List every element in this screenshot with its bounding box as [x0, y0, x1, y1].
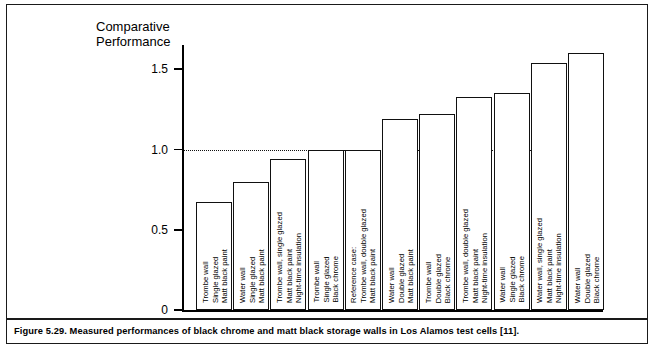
bar: Trombe wall, single glazed Matt black pa… [270, 159, 306, 310]
bar: Trombe wall Double glazed Black chrome [419, 114, 455, 310]
y-tick-mark [174, 229, 183, 231]
bar-category-label: Water wall Double glazed Matt black pain… [383, 249, 419, 303]
bar: Water wall Single glazed Black chrome [494, 93, 530, 310]
bar-chart: Comparative Performance 00.51.01.5 Tromb… [0, 0, 656, 318]
bar-category-text: Trombe wall, double glazed Matt black pa… [461, 209, 490, 303]
y-tick-mark [174, 68, 183, 70]
bar: Water wall Single glazed Matt black pain… [233, 182, 269, 310]
bar-series: Trombe wall Single glazed Matt black pai… [196, 45, 606, 310]
bar-category-label: Reference case: Trombe wall, double glaz… [346, 209, 382, 303]
bar: Water wall Double glazed Matt black pain… [382, 119, 418, 310]
bar-category-text: Water wall Double glazed Matt black pain… [387, 249, 416, 303]
y-tick-label: 0 [110, 304, 168, 316]
bar-category-text: Trombe wall, single glazed Matt black pa… [275, 212, 304, 303]
figure-caption: Figure 5.29. Measured performances of bl… [14, 326, 634, 336]
bar-category-label: Water wall Single glazed Black chrome [495, 256, 531, 303]
bar: Water wall Double glazed Black chrome [568, 53, 604, 310]
bar-category-label: Water wall, single glazed Matt black pai… [532, 218, 568, 303]
bar-category-label: Trombe wall, single glazed Matt black pa… [271, 212, 307, 303]
bar-category-label: Trombe wall Double glazed Black chrome [420, 254, 456, 303]
bar: Trombe wall, double glazed Matt black pa… [456, 97, 492, 310]
bar-category-text: Water wall Single glazed Matt black pain… [238, 249, 267, 303]
figure-page: Comparative Performance 00.51.01.5 Tromb… [0, 0, 656, 351]
bar-category-label: Water wall Double glazed Black chrome [569, 254, 605, 303]
y-axis-line [182, 45, 184, 311]
bar: Trombe wall Single glazed Black chrome [308, 150, 344, 311]
bar-category-text: Trombe wall Single glazed Matt black pai… [201, 249, 230, 303]
bar-category-text: Water wall, single glazed Matt black pai… [535, 218, 564, 303]
bar: Water wall, single glazed Matt black pai… [531, 63, 567, 310]
y-tick-mark [174, 309, 183, 311]
bar-category-text: Trombe wall Single glazed Black chrome [312, 256, 341, 303]
bar-category-text: Reference case: Trombe wall, double glaz… [349, 209, 378, 303]
bar: Reference case: Trombe wall, double glaz… [345, 150, 381, 311]
y-tick-label: 1.0 [110, 144, 168, 156]
y-tick-label: 0.5 [110, 224, 168, 236]
bar-category-text: Water wall Single glazed Black chrome [498, 256, 527, 303]
bar-category-text: Water wall Double glazed Black chrome [573, 254, 602, 303]
y-tick-label: 1.5 [110, 63, 168, 75]
caption-divider [6, 318, 648, 320]
bar: Trombe wall Single glazed Matt black pai… [196, 202, 232, 310]
bar-category-text: Trombe wall Double glazed Black chrome [424, 254, 453, 303]
bar-category-label: Trombe wall Single glazed Matt black pai… [197, 249, 233, 303]
y-tick-mark [174, 149, 183, 151]
bar-category-label: Trombe wall Single glazed Black chrome [309, 256, 345, 303]
y-axis-title: Comparative Performance [96, 20, 170, 49]
bar-category-label: Water wall Single glazed Matt black pain… [234, 249, 270, 303]
bar-category-label: Trombe wall, double glazed Matt black pa… [457, 209, 493, 303]
